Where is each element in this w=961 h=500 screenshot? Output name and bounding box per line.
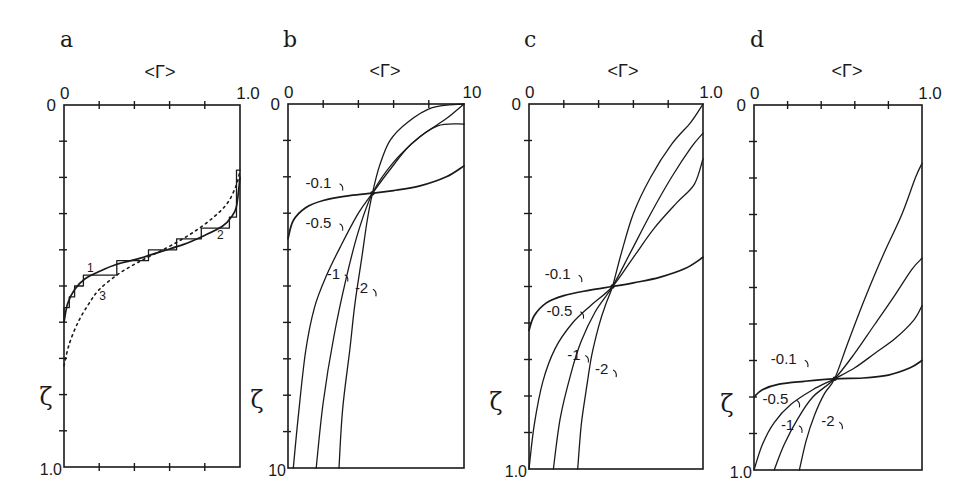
y-tick-label-max: 1.0 (40, 461, 62, 478)
annotation-leader (613, 370, 616, 377)
y-tick-label-min: 0 (737, 96, 746, 115)
curve-annotation: -0.5 (306, 214, 332, 231)
curve-1 (64, 170, 240, 322)
x-tick-label-min: 0 (750, 84, 759, 103)
panel-label-a: a (60, 27, 73, 52)
curve-m1 (316, 104, 464, 468)
annotation-leader (579, 275, 582, 282)
curve-annotation: -0.1 (771, 350, 797, 367)
curve-m0_5 (754, 306, 922, 470)
x-tick-label-max: 10 (463, 83, 482, 102)
plot-frame (64, 105, 240, 467)
curve-annotation: 1 (87, 261, 94, 275)
annotation-leader (373, 289, 376, 296)
curve-annotation: -1 (567, 346, 580, 363)
curve-annotation: -2 (821, 412, 834, 429)
plot-frame (288, 104, 464, 468)
crossing-point-marker (610, 284, 614, 288)
y-tick-label-min: 0 (47, 96, 56, 115)
annotation-leader (839, 422, 842, 429)
y-axis-label: ζ (250, 386, 263, 414)
x-axis-label: <Γ> (832, 61, 863, 81)
curve-annotation: -0.1 (545, 265, 571, 282)
crossing-point-marker (832, 377, 836, 381)
x-axis-label: <Γ> (145, 62, 176, 82)
panel-label-c: c (524, 27, 536, 52)
curve-annotation: -1 (327, 265, 340, 282)
y-axis-label: ζ (489, 388, 502, 416)
y-tick-label-min: 0 (512, 95, 521, 114)
annotation-leader (799, 426, 802, 433)
annotation-leader (805, 360, 808, 367)
figure-canvas: a<Γ>ζ01.001.0123b<Γ>ζ010010-0.1-0.5-1-2c… (0, 0, 961, 500)
crossing-point-marker (370, 191, 374, 195)
curve-m2 (578, 104, 703, 469)
panel-c: c<Γ>ζ01.001.0-0.1-0.5-1-2 (489, 27, 722, 480)
x-axis-label: <Γ> (370, 61, 401, 81)
annotation-leader (585, 356, 588, 363)
curve-annotation: 3 (99, 289, 106, 303)
panel-label-d: d (750, 27, 764, 52)
panel-label-b: b (283, 27, 297, 52)
curve-m2 (799, 163, 922, 470)
curve-m1 (553, 133, 703, 469)
y-tick-label-max: 1.0 (730, 464, 752, 481)
y-axis-label: ζ (39, 383, 52, 411)
y-tick-label-min: 0 (271, 95, 280, 114)
curve-annotation: -1 (781, 416, 794, 433)
annotation-leader (340, 224, 343, 231)
x-tick-label-max: 1.0 (918, 84, 942, 103)
annotation-leader (340, 184, 343, 191)
panel-d: d<Γ>ζ01.001.0-0.1-0.5-1-2 (720, 27, 941, 481)
panel-a: a<Γ>ζ01.001.0123 (39, 27, 259, 478)
x-axis-label: <Γ> (608, 61, 639, 81)
curve-annotation: -0.1 (306, 174, 332, 191)
x-tick-label-max: 1.0 (236, 84, 260, 103)
y-tick-label-max: 1.0 (505, 463, 527, 480)
curve-annotation: -2 (355, 279, 368, 296)
curve-annotation: -0.5 (762, 390, 788, 407)
x-tick-label-min: 0 (60, 84, 69, 103)
x-tick-label-min: 0 (284, 83, 293, 102)
annotation-leader (796, 400, 799, 407)
x-tick-label-min: 0 (525, 83, 534, 102)
curve-annotation: -0.5 (546, 302, 572, 319)
curve-annotation: 2 (217, 228, 224, 242)
curve-annotation: -2 (595, 360, 608, 377)
y-tick-label-max: 10 (268, 462, 286, 479)
x-tick-label-max: 1.0 (699, 83, 723, 102)
y-axis-label: ζ (720, 390, 733, 418)
panel-b: b<Γ>ζ010010-0.1-0.5-1-2 (250, 27, 481, 479)
